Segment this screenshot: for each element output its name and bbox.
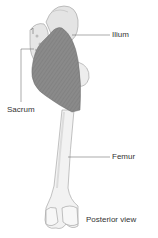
view-label: Posterior view [86,216,136,224]
femur-bone [45,110,78,229]
sacrum-label: Sacrum [7,106,35,114]
ilium-label: Ilium [112,31,129,39]
femur-label: Femur [112,153,135,161]
anatomy-diagram [0,0,158,238]
